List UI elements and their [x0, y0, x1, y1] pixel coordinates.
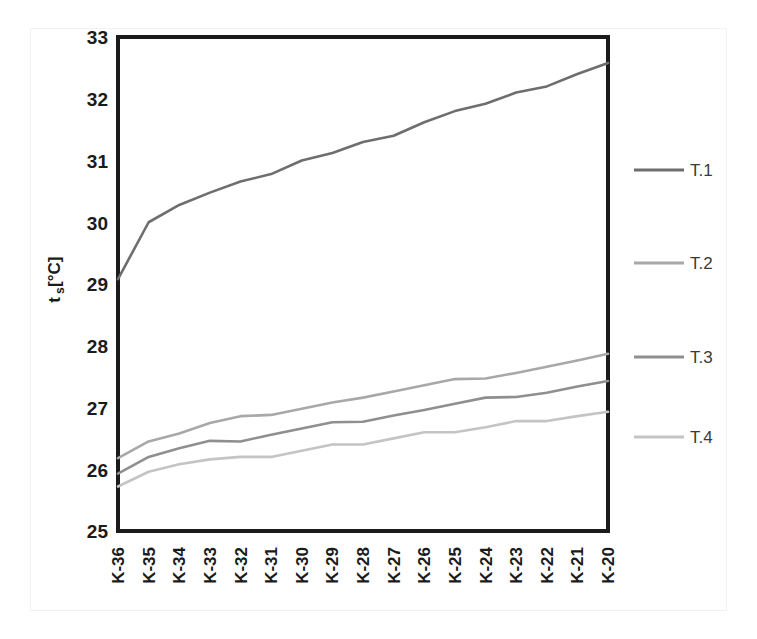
x-tick-label: K-27	[385, 547, 404, 584]
chart-legend: T.1T.2T.3T.4	[634, 161, 713, 447]
y-tick-labels: 33 32 31 30 29 28 27 26 25	[87, 27, 109, 542]
y-tick-label: 27	[87, 398, 108, 419]
x-tick-label: K-31	[262, 547, 281, 584]
y-axis-title-sub: s	[53, 287, 67, 294]
x-tick-label: K-21	[568, 547, 587, 584]
legend-item-t-3[interactable]: T.3	[634, 348, 713, 367]
x-tick-labels: K-36K-35K-34K-33K-32K-31K-30K-29K-28K-27…	[109, 546, 618, 583]
x-tick-label: K-29	[323, 547, 342, 584]
line-chart: t s [°C] 33 32 31 30 29 28 27 26 25 K-36…	[0, 0, 757, 639]
series-line-t-4	[118, 412, 608, 487]
x-tick-label: K-36	[109, 547, 128, 584]
plot-frame	[118, 37, 608, 531]
x-tick-label: K-28	[354, 547, 373, 584]
y-tick-label: 26	[87, 460, 108, 481]
x-tick-label: K-33	[201, 547, 220, 584]
legend-label: T.1	[690, 161, 713, 180]
x-tick-label: K-20	[599, 547, 618, 584]
x-tick-label: K-35	[140, 547, 159, 584]
x-tick-label: K-24	[477, 546, 496, 583]
y-tick-label: 29	[87, 274, 108, 295]
x-tick-label: K-30	[293, 547, 312, 584]
x-tick-label: K-23	[507, 547, 526, 584]
y-tick-label: 25	[87, 521, 109, 542]
series-line-t-1	[118, 63, 608, 279]
x-tick-label: K-26	[415, 547, 434, 584]
y-axis-title-main: t	[45, 297, 64, 303]
legend-item-t-4[interactable]: T.4	[634, 428, 713, 447]
x-tick-label: K-25	[446, 547, 465, 584]
legend-label: T.4	[690, 428, 713, 447]
y-tick-label: 33	[87, 27, 108, 48]
legend-label: T.2	[690, 254, 713, 273]
y-tick-label: 30	[87, 213, 108, 234]
x-tick-label: K-22	[538, 547, 557, 584]
series-line-t-3	[118, 381, 608, 474]
y-tick-label: 31	[87, 151, 109, 172]
legend-item-t-2[interactable]: T.2	[634, 254, 713, 273]
x-tick-label: K-32	[232, 547, 251, 584]
x-tick-label: K-34	[170, 546, 189, 583]
y-tick-label: 32	[87, 89, 108, 110]
series-layer	[118, 63, 608, 487]
legend-label: T.3	[690, 348, 713, 367]
series-line-t-2	[118, 354, 608, 458]
y-tick-label: 28	[87, 336, 108, 357]
y-axis-title: t s [°C]	[45, 257, 67, 303]
y-axis-title-unit: [°C]	[45, 257, 64, 287]
chart-figure: t s [°C] 33 32 31 30 29 28 27 26 25 K-36…	[0, 0, 757, 639]
legend-item-t-1[interactable]: T.1	[634, 161, 713, 180]
